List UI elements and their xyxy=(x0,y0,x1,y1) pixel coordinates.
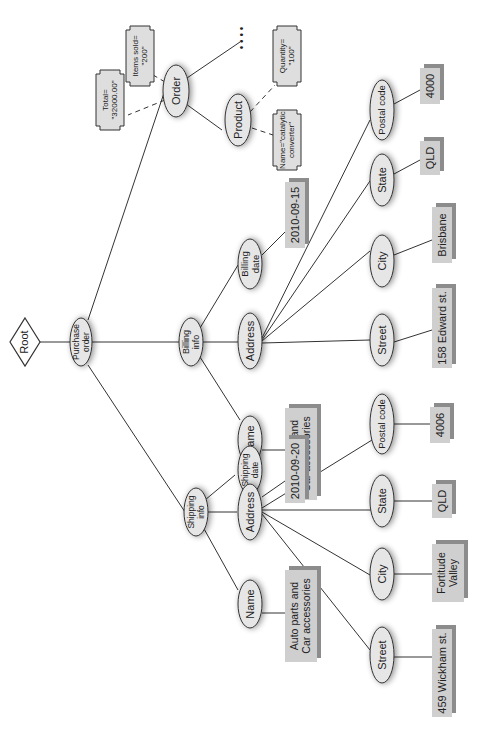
order-items-sold-label-2: "200" xyxy=(140,46,149,65)
product-name-label-2: converter" xyxy=(287,122,296,158)
order-label: Order xyxy=(170,77,182,105)
shipping-city-node: City xyxy=(370,548,394,600)
billing-city-label: City xyxy=(376,251,388,270)
purchase-order-node: Purchase order xyxy=(70,318,92,366)
order-total-label-2: "32000.00" xyxy=(110,80,119,119)
shipping-postal-node: Postal code xyxy=(370,394,394,454)
billing-street-node: Street xyxy=(370,314,394,366)
product-quantity-label-2: "100" xyxy=(287,46,296,65)
billing-postal-label: Postal code xyxy=(376,85,387,135)
billing-city-node: City xyxy=(370,235,394,287)
shipping-city-label: City xyxy=(376,564,388,583)
shipping-street-label: Street xyxy=(376,640,388,669)
shipping-city-text-2: Valley xyxy=(447,558,459,587)
billing-date-value: 2010-09-15 xyxy=(285,178,309,248)
more-ellipsis: • • • • xyxy=(236,26,247,49)
xml-tree-diagram: Root Purchase order Order Product • • • … xyxy=(0,0,477,729)
shipping-street-node: Street xyxy=(370,627,394,683)
shipping-name-value: Auto parts and Car accessories xyxy=(285,566,321,662)
billing-state-value: QLD xyxy=(420,137,444,175)
shipping-name-node: Name xyxy=(238,580,262,628)
billing-info-label-1: Billing xyxy=(181,330,191,354)
billing-city-text: Brisbane xyxy=(436,213,448,256)
shipping-name-text-1: Auto parts and xyxy=(288,582,300,650)
shipping-state-label: State xyxy=(376,488,388,514)
shipping-state-node: State xyxy=(370,475,394,527)
shipping-postal-value: 4006 xyxy=(430,403,454,443)
billing-date-label-1: Billing xyxy=(239,251,250,276)
billing-postal-value: 4000 xyxy=(420,64,444,104)
billing-info-label-2: info xyxy=(191,335,201,350)
shipping-city-text-1: Fortitude xyxy=(435,552,447,594)
billing-date-text: 2010-09-15 xyxy=(289,187,301,243)
shipping-date-value: 2010-09-20 xyxy=(285,435,309,503)
product-name-label-1: Name="catalytic xyxy=(278,111,287,169)
product-node: Product xyxy=(225,94,251,146)
product-label: Product xyxy=(232,101,244,139)
billing-state-node: State xyxy=(370,154,394,206)
shipping-info-label-1: Shipping xyxy=(186,495,196,528)
shipping-postal-text: 4006 xyxy=(434,413,446,437)
billing-postal-text: 4000 xyxy=(424,74,436,98)
edge-po-shipping xyxy=(88,365,185,512)
billing-address-node: Address xyxy=(238,313,262,369)
order-items-sold-attribute: Items sold= "200" xyxy=(126,26,154,86)
shipping-date-label-1: Shipping xyxy=(240,453,250,486)
shipping-name-text-2: Car accessories xyxy=(300,578,312,653)
billing-state-label: State xyxy=(376,167,388,193)
shipping-name-label: Name xyxy=(244,589,256,618)
billing-street-value: 158 Edward st. xyxy=(432,284,456,368)
shipping-street-value: 459 Wickham st. xyxy=(432,625,456,717)
shipping-date-text: 2010-09-20 xyxy=(289,443,301,499)
order-total-label-1: Total= xyxy=(101,89,110,111)
shipping-state-value: QLD xyxy=(432,480,456,518)
purchase-order-label-1: Purchase xyxy=(71,324,81,360)
shipping-postal-label: Postal code xyxy=(376,399,387,449)
product-quantity-label-1: Quantity= xyxy=(278,38,287,73)
product-name-attribute: Name="catalytic converter" xyxy=(273,110,301,170)
shipping-city-value: Fortitude Valley xyxy=(432,540,468,602)
root-node: Root xyxy=(10,318,40,366)
shipping-street-text: 459 Wickham st. xyxy=(436,632,448,713)
order-total-attribute: Total= "32000.00" xyxy=(96,70,124,130)
shipping-state-text: QLD xyxy=(436,490,448,513)
billing-date-node: Billing date xyxy=(238,239,262,289)
billing-address-label: Address xyxy=(244,320,256,361)
root-label: Root xyxy=(18,330,30,353)
shipping-date-label-2: date xyxy=(250,461,260,478)
order-items-sold-label-1: Items sold= xyxy=(131,35,140,76)
purchase-order-label-2: order xyxy=(81,332,91,352)
shipping-info-label-2: info xyxy=(196,505,206,519)
billing-info-node: Billing info xyxy=(179,318,203,366)
order-node: Order xyxy=(163,65,189,117)
billing-street-text: 158 Edward st. xyxy=(436,291,448,364)
product-quantity-attribute: Quantity= "100" xyxy=(273,26,301,86)
billing-state-text: QLD xyxy=(424,147,436,170)
shipping-address-node: Address xyxy=(238,484,262,540)
billing-street-label: Street xyxy=(376,325,388,354)
shipping-address-label: Address xyxy=(244,491,256,532)
billing-date-label-2: date xyxy=(250,255,261,274)
shipping-info-node: Shipping info xyxy=(184,488,208,536)
billing-city-value: Brisbane xyxy=(432,203,456,263)
billing-postal-node: Postal code xyxy=(370,80,394,140)
